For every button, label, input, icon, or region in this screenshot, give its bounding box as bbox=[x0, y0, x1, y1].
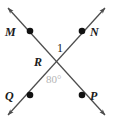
angle-number-label: 1 bbox=[57, 42, 63, 54]
geometry-figure: M N Q P R 1 80° bbox=[0, 0, 113, 121]
point-label-m: M bbox=[5, 26, 16, 38]
angle-measure-label: 80° bbox=[46, 74, 61, 85]
point-p-dot bbox=[79, 92, 86, 99]
point-label-n: N bbox=[90, 26, 99, 38]
point-m-dot bbox=[27, 28, 34, 35]
point-label-p: P bbox=[90, 90, 97, 102]
point-q-dot bbox=[27, 92, 34, 99]
point-label-r: R bbox=[34, 56, 42, 68]
point-n-dot bbox=[79, 28, 86, 35]
point-label-q: Q bbox=[5, 90, 14, 102]
